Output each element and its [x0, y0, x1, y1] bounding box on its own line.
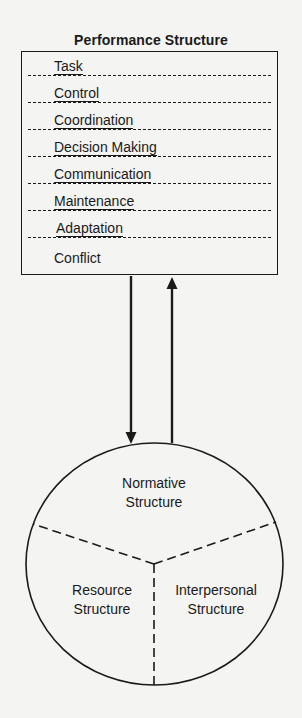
structure-diagram: Performance Structure Task Control Coord…	[0, 0, 302, 718]
normative-structure-label: Normative Structure	[104, 474, 204, 512]
arrow-up-icon	[167, 277, 178, 443]
arrow-down-icon	[126, 276, 137, 444]
resource-structure-label: Resource Structure	[58, 581, 146, 619]
interpersonal-structure-label: Interpersonal Structure	[159, 581, 273, 619]
